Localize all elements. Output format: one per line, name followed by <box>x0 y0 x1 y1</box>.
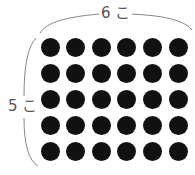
dot <box>117 38 136 57</box>
row-count-label: 5 こ <box>6 99 39 114</box>
dot <box>169 64 188 83</box>
dot <box>41 38 60 57</box>
dot <box>143 116 162 135</box>
dot <box>117 64 136 83</box>
dot <box>92 116 111 135</box>
dot <box>143 64 162 83</box>
dot <box>143 90 162 109</box>
dot <box>92 90 111 109</box>
dot <box>169 142 188 161</box>
dot <box>92 64 111 83</box>
dot <box>66 90 85 109</box>
dot <box>143 38 162 57</box>
dot <box>92 38 111 57</box>
dot <box>66 64 85 83</box>
column-count-label: 6 こ <box>99 6 132 21</box>
dot <box>41 64 60 83</box>
dot <box>66 38 85 57</box>
dot <box>169 90 188 109</box>
dot <box>41 90 60 109</box>
dot-array-diagram: 6 こ 5 こ <box>0 0 195 175</box>
dot <box>41 142 60 161</box>
dot <box>92 142 111 161</box>
dot <box>169 116 188 135</box>
dot <box>169 38 188 57</box>
dot <box>41 116 60 135</box>
